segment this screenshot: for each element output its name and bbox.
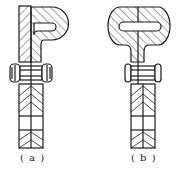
caption-a: ( a ) bbox=[20, 152, 45, 163]
strip bbox=[19, 6, 31, 62]
panel-a-drawing bbox=[10, 6, 69, 148]
bolt-a bbox=[10, 62, 52, 84]
t-head-slot bbox=[119, 22, 161, 31]
panel-b-drawing bbox=[108, 7, 170, 148]
technical-drawing bbox=[0, 0, 184, 175]
p-clamp bbox=[31, 7, 69, 62]
caption-b: ( b ) bbox=[131, 152, 157, 163]
bolt-b bbox=[125, 62, 161, 84]
t-head bbox=[108, 7, 170, 62]
